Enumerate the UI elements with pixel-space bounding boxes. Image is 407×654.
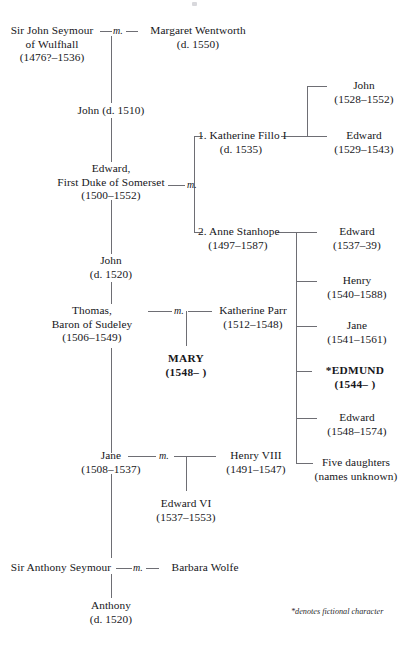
person-dates: (1497–1587) <box>198 239 278 253</box>
person-edward-somerset: Edward, First Duke of Somerset (1500–155… <box>26 162 196 203</box>
person-name-line2: First Duke of Somerset <box>26 176 196 190</box>
person-edmund-1544: *EDMUND (1544– ) <box>311 364 399 391</box>
marriage-symbol-jane-henry: m. <box>159 450 169 461</box>
person-katherine-fillol: 1. Katherine Fillo I (d. 1535) <box>198 129 284 156</box>
person-five-daughters: Five daughters (names unknown) <box>308 456 404 483</box>
children-spine-stanhope <box>296 232 297 463</box>
descent-line-john-1510-to-edward-somerset <box>111 118 112 162</box>
person-dates: (1529–1543) <box>325 143 403 157</box>
children-spine-fillol <box>307 86 308 137</box>
person-dates: (1512–1548) <box>209 318 297 332</box>
person-jane-1541: Jane (1541–1561) <box>316 319 398 346</box>
descent-line-to-edward-vi <box>186 456 187 491</box>
person-dates: (1506–1549) <box>36 331 148 345</box>
marriage-rule-jane-right <box>174 456 216 457</box>
person-name: Henry VIII <box>212 449 300 463</box>
person-name: Edward VI <box>143 497 229 511</box>
person-katherine-parr: Katherine Parr (1512–1548) <box>209 304 297 331</box>
person-name: Barbara Wolfe <box>158 561 252 575</box>
person-dates: (d. 1520) <box>66 268 156 282</box>
person-henry-1540: Henry (1540–1588) <box>316 274 398 301</box>
person-dates: (1491–1547) <box>212 463 300 477</box>
descent-line-somerset-to-john-1520 <box>111 200 112 254</box>
person-dates: (1500–1552) <box>26 189 196 203</box>
person-edward-1537: Edward (1537–39) <box>316 225 398 252</box>
footnote-fictional-character: *denotes fictional character <box>291 607 383 616</box>
person-john-1510: John (d. 1510) <box>51 104 171 118</box>
marriage-rule-thomas-left <box>148 311 172 312</box>
person-dates: (d. 1535) <box>198 143 284 157</box>
child-rule-henry-1540 <box>296 281 317 282</box>
marriage-symbol-thomas-parr: m. <box>174 305 184 316</box>
person-dates: (1537–39) <box>316 239 398 253</box>
person-dates: (1537–1553) <box>143 511 229 525</box>
descent-line-to-anthony-1520 <box>111 574 112 598</box>
person-sir-john-seymour: Sir John Seymour of Wulfhall (1476?–1536… <box>4 24 100 65</box>
child-rule-jane-1541 <box>296 326 317 327</box>
person-name-line2: of Wulfhall <box>4 38 100 52</box>
person-sir-anthony-seymour: Sir Anthony Seymour <box>5 561 117 575</box>
person-dates: (1548– ) <box>143 366 229 380</box>
person-dates: (1548–1574) <box>316 425 398 439</box>
child-rule-edward-1537 <box>296 232 317 233</box>
person-name: Jane <box>66 449 156 463</box>
person-thomas-sudeley: Thomas, Baron of Sudeley (1506–1549) <box>36 304 148 345</box>
person-barbara-wolfe: Barbara Wolfe <box>158 561 252 575</box>
child-rule-edward-1548 <box>296 418 317 419</box>
child-rule-john-1528 <box>307 86 327 87</box>
person-name: Thomas, <box>36 304 148 318</box>
person-john-1520: John (d. 1520) <box>66 254 156 281</box>
person-name: Edward, <box>26 162 196 176</box>
person-dates: (names unknown) <box>308 470 404 484</box>
descent-line-to-mary <box>186 311 187 346</box>
person-dates: (d. 1550) <box>137 38 259 52</box>
person-name: Edward <box>316 225 398 239</box>
person-john-1528: John (1528–1552) <box>325 79 403 106</box>
family-tree-diagram: m. m. m. m. m. Sir John Seymour of Wulfh… <box>0 0 407 654</box>
person-name: 2. Anne Stanhope <box>198 225 278 239</box>
person-dates: (1476?–1536) <box>4 51 100 65</box>
person-margaret-wentworth: Margaret Wentworth (d. 1550) <box>137 24 259 51</box>
person-edward-1529: Edward (1529–1543) <box>325 129 403 156</box>
person-dates: (1508–1537) <box>66 463 156 477</box>
child-rule-edward-1529 <box>307 136 327 137</box>
child-rule-edmund-1544 <box>296 371 312 372</box>
person-name: Five daughters <box>308 456 404 470</box>
person-henry-viii: Henry VIII (1491–1547) <box>212 449 300 476</box>
person-name: Anthony <box>66 599 156 613</box>
marriage-rule-seymour-wentworth-left <box>100 31 112 32</box>
descent-line-john-1520-to-thomas <box>111 282 112 304</box>
marriage-symbol-seymour-wentworth: m. <box>113 25 123 36</box>
page-artifact-speck <box>192 2 197 6</box>
person-dates: (d. 1520) <box>66 613 156 627</box>
person-name: John <box>325 79 403 93</box>
person-anthony-1520: Anthony (d. 1520) <box>66 599 156 626</box>
person-name: Katherine Parr <box>209 304 297 318</box>
person-name: *EDMUND <box>311 364 399 378</box>
descent-line-to-john-1510 <box>111 36 112 103</box>
marriage-symbol-anthony-barbara: m. <box>133 562 143 573</box>
descent-line-jane-to-anthony-seymour <box>111 474 112 558</box>
person-name: John (d. 1510) <box>51 104 171 118</box>
person-dates: (1528–1552) <box>325 93 403 107</box>
person-name: Margaret Wentworth <box>137 24 259 38</box>
person-name: MARY <box>143 352 229 366</box>
person-name: Sir John Seymour <box>4 24 100 38</box>
marriage-rule-anthony-left <box>116 568 132 569</box>
person-name: 1. Katherine Fillo I <box>198 129 284 143</box>
person-mary-1548: MARY (1548– ) <box>143 352 229 379</box>
person-name: Jane <box>316 319 398 333</box>
person-name: Henry <box>316 274 398 288</box>
person-name: Sir Anthony Seymour <box>5 561 117 575</box>
person-name: John <box>66 254 156 268</box>
children-rule-stanhope <box>277 232 297 233</box>
person-dates: (1540–1588) <box>316 288 398 302</box>
descent-line-thomas-to-jane <box>111 348 112 453</box>
person-anne-stanhope: 2. Anne Stanhope (1497–1587) <box>198 225 278 252</box>
person-edward-1548: Edward (1548–1574) <box>316 411 398 438</box>
person-edward-vi: Edward VI (1537–1553) <box>143 497 229 524</box>
person-name: Edward <box>316 411 398 425</box>
person-jane-seymour: Jane (1508–1537) <box>66 449 156 476</box>
person-name: Edward <box>325 129 403 143</box>
person-name-line2: Baron of Sudeley <box>36 318 148 332</box>
